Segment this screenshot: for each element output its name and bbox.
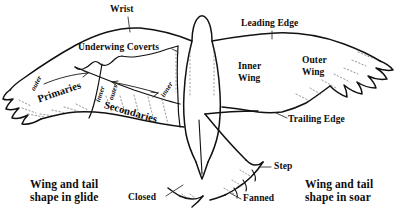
glide-closed-tail-outline [168,188,203,199]
closed-tail-inner-line [199,120,202,174]
wrist-leader-line [128,17,130,32]
label-closed: Closed [128,192,156,202]
soar-wing-upper-edge [205,111,258,114]
label-inner-wing-line1: Inner [238,61,261,71]
label-trailing-edge: Trailing Edge [288,114,345,124]
body-feather-hatching [176,50,214,96]
left-wingtip-primaries-outline [3,90,41,124]
label-fanned: Fanned [243,193,274,203]
fanned-leader-line [230,193,241,199]
caption-soar-line2: shape in soar [305,191,371,204]
body-right-side [208,41,220,162]
bird-anatomy-diagram: Wrist Underwing Coverts Leading Edge Tra… [0,0,410,217]
caption-soar-line1: Wing and tail [305,178,373,191]
bird-outline-group [3,16,393,179]
closed-leader-line [166,185,183,196]
soar-wing-slant-edge [205,114,246,160]
trailing-edge-leader-line [276,113,287,118]
soar-fanned-tail-edge [225,162,263,195]
body-left-side [184,41,196,162]
label-underwing-coverts: Underwing Coverts [78,42,159,52]
left-primaries-feather-hatching [19,100,88,117]
label-leading-edge: Leading Edge [241,18,298,28]
label-outer-wing-line2: Wing [302,67,324,77]
soar-tail-base-edge [210,195,225,200]
right-wingtip-primaries-outline [330,61,393,97]
label-outer-wing-line1: Outer [302,55,327,65]
soar-shape-group [205,111,263,200]
label-inner-wing-line2: Wing [238,73,260,83]
left-secondaries-inner-boundary [177,46,180,127]
right-leading-edge [212,33,380,61]
coverts-leader-line [172,49,178,52]
label-wrist: Wrist [110,4,134,14]
label-step: Step [274,161,292,171]
body-head-outline [192,16,212,40]
caption-glide-line1: Wing and tail [30,178,98,191]
soar-tail-step-notch [246,160,263,165]
caption-glide-line2: shape in glide [30,191,99,204]
left-trailing-edge [41,112,184,127]
